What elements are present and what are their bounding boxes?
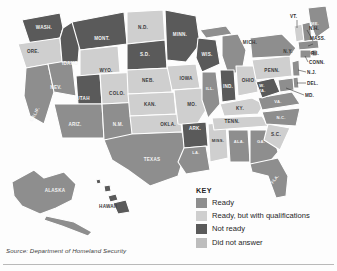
state-label-ny: N.Y.: [283, 49, 292, 54]
bottom-divider: [3, 264, 334, 265]
state-label-wv-line2: VA.: [258, 88, 265, 93]
state-label-in: IND.: [223, 84, 233, 89]
state-label-al: ALA.: [234, 139, 245, 144]
inset-label-hawaii: HAWAII: [99, 204, 117, 209]
legend-swatch-ready-qualified: [196, 211, 207, 221]
state-label-mn: MINN.: [173, 32, 187, 37]
state-label-wi: WIS.: [202, 52, 213, 57]
state-label-va: VA.: [274, 99, 281, 104]
leader-label-vt: VT.: [290, 14, 297, 19]
state-label-nm: N.M.: [113, 122, 124, 127]
state-label-mt: MONT.: [94, 36, 110, 41]
legend-swatch-not-ready: [196, 224, 207, 234]
legend-label-ready-qualified: Ready, but with qualifications: [212, 211, 310, 221]
state-label-tx: TEXAS: [144, 157, 161, 162]
state-label-ut: UTAH: [76, 96, 90, 101]
state-hi-2[interactable]: [104, 185, 111, 192]
state-mt[interactable]: [72, 12, 127, 50]
state-hi-3[interactable]: [108, 194, 118, 202]
state-label-sd: S.D.: [140, 52, 150, 57]
legend-item-no-answer[interactable]: Did not answer: [196, 238, 335, 248]
leader-label-nh: N.H.: [309, 26, 319, 31]
state-label-or: ORE.: [27, 49, 39, 54]
state-label-il: ILL.: [206, 86, 214, 91]
source-note: Source: Department of Homeland Security: [6, 247, 126, 254]
state-label-ga: GA.: [257, 139, 265, 144]
state-label-nc: N.C.: [276, 115, 285, 120]
leader-label-ri: R.I.: [311, 51, 319, 56]
state-label-ia: IOWA: [179, 76, 193, 81]
state-label-la: LA.: [192, 150, 199, 155]
legend-item-ready[interactable]: Ready: [196, 198, 335, 208]
state-label-az: ARIZ.: [68, 122, 81, 127]
leader-label-nj: N.J.: [307, 70, 316, 75]
legend-swatch-no-answer: [196, 238, 207, 248]
state-label-ky: KY.: [236, 106, 244, 111]
legend-label-no-answer: Did not answer: [212, 238, 263, 248]
state-label-ne: NEB.: [142, 78, 154, 83]
state-ny[interactable]: [250, 34, 296, 58]
state-label-wa: WASH.: [36, 25, 52, 30]
leader-label-de: DEL.: [307, 81, 318, 86]
legend-item-not-ready[interactable]: Not ready: [196, 224, 335, 234]
state-label-nd: N.D.: [138, 25, 148, 30]
state-label-pa: PENN.: [264, 68, 279, 73]
state-label-nv: NEV.: [50, 85, 61, 90]
legend-swatch-ready: [196, 198, 207, 208]
leader-label-ma: MASS.: [310, 36, 326, 41]
state-label-oh: OHIO: [242, 78, 255, 83]
legend-label-not-ready: Not ready: [212, 224, 245, 234]
legend-title: KEY: [196, 186, 335, 195]
state-ma[interactable]: [298, 40, 319, 50]
state-label-sc: S.C.: [271, 132, 281, 137]
state-nj[interactable]: [292, 60, 300, 76]
inset-label-alaska: ALASKA: [45, 188, 66, 193]
leader-label-md: MD.: [305, 93, 314, 98]
state-tn[interactable]: [212, 116, 268, 130]
state-label-ok: OKLA.: [160, 122, 176, 127]
readiness-map-figure: WASH. ORE. IDAHO MONT. WYO. NEV. UTAH CA…: [0, 0, 337, 271]
state-label-co: COLO.: [109, 91, 125, 96]
legend-label-ready: Ready: [212, 198, 234, 208]
map-legend: KEY Ready Ready, but with qualifications…: [196, 186, 335, 251]
leader-label-ct: CONN.: [309, 60, 325, 65]
state-label-id: IDAHO: [62, 61, 78, 66]
state-label-tn: TENN.: [224, 119, 239, 124]
state-label-ks: KAN.: [144, 102, 156, 107]
state-hi-1[interactable]: [96, 179, 101, 184]
state-label-mi: MICH.: [243, 40, 257, 45]
state-label-ar: ARK.: [189, 126, 201, 131]
legend-item-ready-qualified[interactable]: Ready, but with qualifications: [196, 211, 335, 221]
state-az[interactable]: [54, 104, 104, 138]
state-mo[interactable]: [174, 88, 206, 126]
state-label-ms: MISS.: [212, 138, 224, 143]
state-ak-aleutians[interactable]: [44, 216, 92, 236]
state-label-mo: MO.: [187, 102, 196, 107]
state-label-wy: WYO.: [99, 68, 112, 73]
state-al[interactable]: [228, 130, 250, 162]
